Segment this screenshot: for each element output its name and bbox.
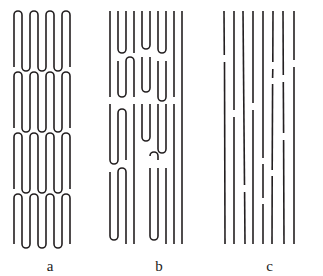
panel-b-diagram (104, 0, 214, 250)
chain-c-line-1b (225, 62, 226, 244)
chain-b-seg-16 (110, 168, 126, 244)
chain-b-seg-14 (158, 104, 166, 153)
chain-a-block-4 (14, 194, 70, 248)
chain-b-seg-17 (150, 168, 158, 240)
chain-b-seg-2 (118, 11, 126, 53)
chain-c-line-3 (243, 11, 245, 185)
chain-a-block-1 (14, 11, 70, 71)
chain-b-seg-5 (142, 11, 150, 49)
chain-a-block-2 (14, 72, 70, 132)
chain-b-seg-8 (158, 61, 166, 101)
chain-b-seg-6 (142, 57, 150, 92)
panel-c-broken-chains: c (216, 0, 323, 276)
chain-b-seg-13 (142, 104, 150, 141)
chain-a-block-3 (14, 133, 70, 193)
panel-b-irregular-folding: b (104, 0, 214, 276)
panel-a-diagram (0, 0, 100, 250)
panel-c-diagram (216, 0, 323, 250)
panel-a-label: a (0, 258, 100, 274)
panel-b-label: b (104, 258, 214, 274)
chain-b-seg-18 (150, 152, 158, 160)
chain-b-seg-7 (158, 11, 166, 53)
panel-a-regular-folding: a (0, 0, 100, 276)
chain-b-seg-11 (110, 104, 126, 164)
chain-b-seg-3 (118, 57, 134, 97)
panel-c-label: c (216, 258, 323, 274)
figure-polymer-chain-models: a (0, 0, 323, 276)
